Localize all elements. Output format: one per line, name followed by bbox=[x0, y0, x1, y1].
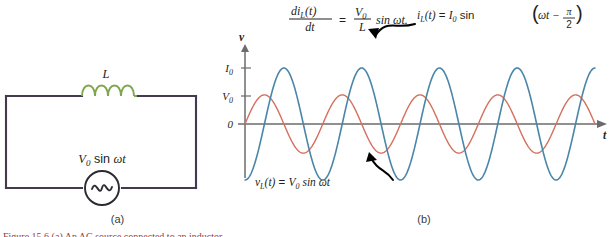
circuit-panel: L V0 sin ωt bbox=[0, 0, 235, 237]
phase-inner: ωt − bbox=[538, 9, 560, 21]
paren-close: ) bbox=[576, 2, 583, 24]
graph-panel: diL(t) dt = V0 L sin ωt. v t I0 bbox=[235, 0, 613, 237]
waveform-graph: diL(t) dt = V0 L sin ωt. v t I0 bbox=[235, 0, 613, 213]
ac-source-icon bbox=[85, 171, 119, 205]
inductor-label: L bbox=[102, 67, 110, 81]
equation-equals: = bbox=[339, 13, 346, 27]
figure-caption: Figure 15.6 (a) An AC source connected t… bbox=[3, 231, 610, 237]
voltage-annotation: vL(t) = V0 sin ωt bbox=[255, 152, 393, 191]
source-label: V0 sin ωt bbox=[78, 152, 126, 168]
x-axis-label: t bbox=[603, 129, 607, 141]
voltage-arrow-head bbox=[366, 152, 377, 162]
x-axis-arrowhead bbox=[597, 120, 607, 128]
y-axis-arrowhead bbox=[241, 44, 249, 52]
y-tick-marks bbox=[241, 68, 251, 96]
panel-b-caption: (b) bbox=[235, 213, 613, 225]
panel-a-caption: (a) bbox=[0, 213, 235, 225]
phase-denominator: 2 bbox=[566, 19, 572, 30]
equation-denominator-right: L bbox=[358, 20, 366, 34]
current-arrow-head bbox=[368, 28, 379, 39]
circuit-diagram: L V0 sin ωt bbox=[0, 0, 235, 213]
inductor-icon bbox=[82, 86, 137, 97]
phase-numerator: π bbox=[566, 6, 572, 17]
equation-numerator-left: diL(t) bbox=[291, 4, 316, 20]
current-equation-label: iL(t) = I0 sin bbox=[417, 9, 474, 24]
governing-equation: diL(t) dt = V0 L sin ωt. bbox=[289, 4, 408, 34]
voltage-equation-label: vL(t) = V0 sin ωt bbox=[255, 176, 331, 191]
equation-denominator-left: dt bbox=[305, 20, 315, 34]
y-tick-label-zero: 0 bbox=[228, 118, 234, 130]
y-axis-label: v bbox=[239, 31, 245, 43]
